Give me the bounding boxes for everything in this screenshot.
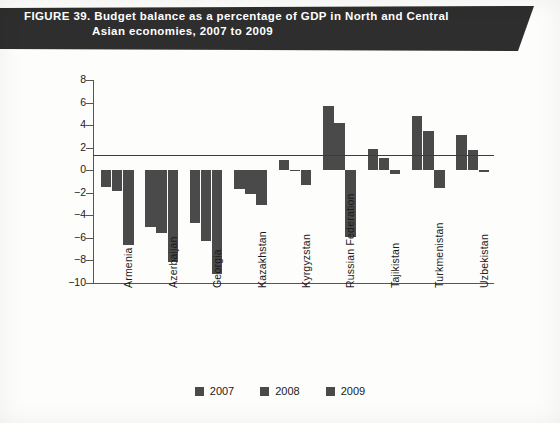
bar-turkmenistan-2008: [423, 131, 434, 170]
x-axis-label-russian-federation: Russian Federation: [344, 193, 356, 288]
zero-baseline: [93, 155, 494, 156]
bar-russian-federation-2008: [334, 123, 345, 170]
y-axis-tick: [86, 148, 93, 149]
y-axis-tick: [86, 193, 93, 194]
legend-label-2007: 2007: [210, 385, 234, 397]
bar-azerbaijan-2008: [156, 170, 167, 233]
legend-swatch-2009: [326, 387, 335, 396]
y-axis-tick-label: −8: [28, 253, 86, 265]
y-axis-tick: [86, 238, 93, 239]
y-axis-tick-label: −6: [28, 231, 86, 243]
y-axis-tick-label: −4: [28, 208, 86, 220]
x-axis-label-azerbaijan: Azerbaijan: [167, 236, 179, 288]
bar-kyrgyzstan-2008: [290, 170, 301, 171]
bar-azerbaijan-2007: [145, 170, 156, 226]
bar-kazakhstan-2007: [234, 170, 245, 189]
y-axis-tick-label: 2: [28, 141, 86, 153]
legend-label-2009: 2009: [341, 385, 365, 397]
figure-title-line-2: Asian economies, 2007 to 2009: [24, 24, 514, 39]
bar-armenia-2009: [123, 170, 134, 244]
bar-russian-federation-2007: [323, 106, 334, 170]
bar-kyrgyzstan-2007: [279, 160, 290, 170]
bar-uzbekistan-2007: [456, 135, 467, 170]
bar-tajikistan-2009: [390, 170, 401, 173]
bar-turkmenistan-2009: [434, 170, 445, 188]
x-axis-label-tajikistan: Tajikistan: [389, 243, 401, 288]
y-axis-tick-label: 6: [28, 96, 86, 108]
bar-tajikistan-2007: [368, 149, 379, 170]
bar-kyrgyzstan-2009: [301, 170, 312, 185]
x-axis-label-armenia: Armenia: [122, 248, 134, 289]
figure-title-text: FIGURE 39. Budget balance as a percentag…: [24, 9, 514, 39]
x-axis-label-turkmenistan: Turkmenistan: [433, 222, 445, 288]
y-axis-tick-label: 0: [28, 163, 86, 175]
y-axis-tick-label: 8: [28, 73, 86, 85]
y-axis-tick: [86, 260, 93, 261]
bar-georgia-2008: [201, 170, 212, 241]
legend-item-2009: 2009: [326, 385, 365, 397]
bar-georgia-2007: [190, 170, 201, 223]
y-axis-tick: [86, 170, 93, 171]
bar-chart: Percentage of GDP 86420−2−4−6−8−10 Armen…: [0, 60, 560, 423]
bar-turkmenistan-2007: [412, 116, 423, 170]
y-axis-tick: [86, 215, 93, 216]
legend-item-2007: 2007: [195, 385, 234, 397]
legend-swatch-2007: [195, 387, 204, 396]
y-axis-tick-label: 4: [28, 118, 86, 130]
x-axis-label-uzbekistan: Uzbekistan: [478, 234, 490, 288]
x-axis-label-kyrgyzstan: Kyrgyzstan: [300, 234, 312, 288]
y-axis-tick: [86, 283, 93, 284]
y-axis-tick: [86, 80, 93, 81]
y-axis-tick: [86, 125, 93, 126]
x-axis-label-georgia: Georgia: [211, 249, 223, 288]
bar-kazakhstan-2008: [245, 170, 256, 194]
x-axis-label-kazakhstan: Kazakhstan: [256, 231, 268, 288]
bar-armenia-2007: [101, 170, 112, 187]
bar-armenia-2008: [112, 170, 123, 190]
y-axis-tick-label: −10: [28, 276, 86, 288]
chart-legend: 2007 2008 2009: [0, 385, 560, 397]
legend-item-2008: 2008: [260, 385, 299, 397]
bar-tajikistan-2008: [379, 158, 390, 170]
figure-title-line-1: FIGURE 39. Budget balance as a percentag…: [24, 10, 449, 22]
legend-swatch-2008: [260, 387, 269, 396]
legend-label-2008: 2008: [275, 385, 299, 397]
y-axis-tick: [86, 103, 93, 104]
bar-uzbekistan-2009: [479, 170, 490, 172]
bar-kazakhstan-2009: [256, 170, 267, 205]
y-axis-tick-label: −2: [28, 186, 86, 198]
bar-uzbekistan-2008: [468, 150, 479, 170]
